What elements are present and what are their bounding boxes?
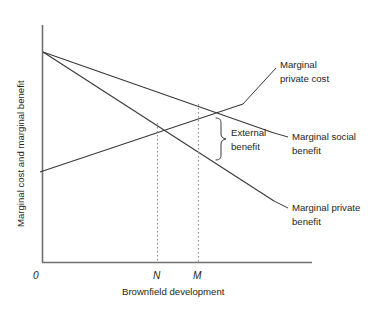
dropline-group <box>158 104 199 262</box>
marginal-private-benefit-leader <box>274 201 288 208</box>
marginal-social-benefit-curve <box>43 52 274 133</box>
marginal-private-cost-leader <box>243 68 276 104</box>
marginal-private-benefit-label-line1: Marginal private <box>292 202 360 213</box>
marginal-social-benefit-label-line2: benefit <box>292 145 321 156</box>
tick-label-M: M <box>193 270 202 281</box>
marginal-social-benefit-leader <box>274 133 288 137</box>
x-axis-label: Brownfield development <box>122 286 225 297</box>
origin-label: 0 <box>33 270 39 281</box>
tick-label-N: N <box>153 270 161 281</box>
external-benefit-brace <box>216 118 226 160</box>
externality-diagram: Marginal cost and marginal benefit Brown… <box>0 0 380 309</box>
label-leader-group <box>274 133 288 208</box>
marginal-private-cost-label-line1: Marginal <box>280 59 317 70</box>
marginal-private-benefit-label-line2: benefit <box>292 216 321 227</box>
external-benefit-label-line2: benefit <box>231 141 260 152</box>
axis-group <box>42 25 312 263</box>
external-benefit-label-line1: External <box>231 127 266 138</box>
marginal-social-benefit-label-line1: Marginal social <box>292 131 356 142</box>
y-axis-label: Marginal cost and marginal benefit <box>15 80 26 227</box>
marginal-private-cost-label-line2: private cost <box>280 73 329 84</box>
